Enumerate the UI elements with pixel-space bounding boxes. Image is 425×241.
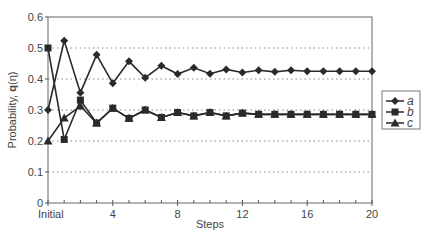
y-tick-label: 0.5 (28, 42, 43, 54)
x-tick-label: 8 (175, 208, 181, 220)
x-tick-label: 4 (110, 208, 116, 220)
diamond-marker (93, 51, 101, 59)
square-marker (45, 45, 52, 52)
x-tick-label: Initial (38, 208, 64, 220)
diamond-marker (238, 68, 246, 76)
data-series (44, 37, 377, 145)
diamond-marker (44, 106, 52, 114)
square-marker (61, 136, 68, 143)
diamond-marker (368, 67, 376, 75)
diamond-marker (255, 66, 263, 74)
diamond-marker (271, 68, 279, 76)
diamond-marker (174, 70, 182, 78)
diamond-marker (287, 66, 295, 74)
y-tick-label: 0.4 (28, 73, 43, 85)
y-tick-label: 0.3 (28, 104, 43, 116)
y-axis-title-prefix: Probability, (6, 92, 18, 149)
line-chart: Initial48121620 00.10.20.30.40.50.6 Step… (0, 0, 425, 241)
x-tick-label: 20 (366, 208, 378, 220)
diamond-marker (222, 65, 230, 73)
diamond-marker (190, 64, 198, 72)
y-tick-label: 0.6 (28, 11, 43, 23)
diamond-marker (76, 89, 84, 97)
y-axis-title-suffix: (η) (6, 72, 18, 85)
x-axis-title: Steps (196, 218, 225, 230)
x-tick-label: 16 (301, 208, 313, 220)
diamond-marker (319, 67, 327, 75)
diamond-marker (206, 70, 214, 78)
y-axis-title-bold: q (6, 85, 18, 92)
diamond-marker (303, 67, 311, 75)
y-axis-title: Probability, q(η) (6, 72, 18, 149)
diamond-marker (60, 37, 68, 45)
diamond-marker (352, 67, 360, 75)
y-tick-label: 0.1 (28, 166, 43, 178)
square-marker (392, 109, 399, 116)
y-tick-label: 0 (37, 197, 43, 209)
y-tick-label: 0.2 (28, 135, 43, 147)
legend-label: c (407, 116, 413, 130)
diamond-marker (336, 67, 344, 75)
legend: abc (382, 91, 420, 130)
x-tick-label: 12 (236, 208, 248, 220)
